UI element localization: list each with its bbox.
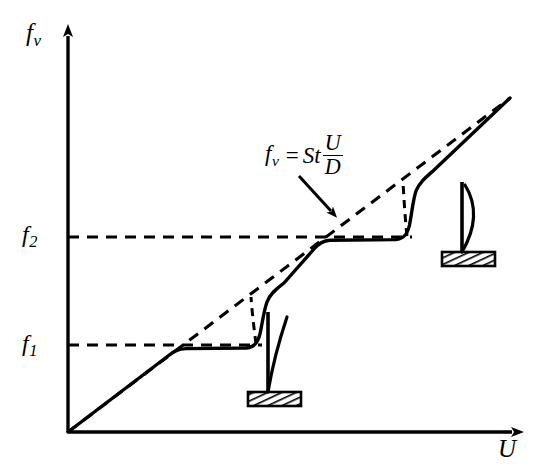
cantilever-large-amplitude-icon	[442, 182, 495, 266]
axis-group	[68, 36, 512, 432]
cantilever-small-amplitude-icon	[248, 312, 301, 406]
y-axis-label: fv	[26, 20, 41, 49]
equation-leader-arrow	[299, 176, 331, 211]
equation-strouhal-number: St	[303, 144, 321, 167]
y-tick-label-f2: f2	[22, 222, 37, 251]
x-axis-label: U	[498, 436, 516, 461]
diagram-svg	[0, 0, 542, 475]
figure-canvas: fv U f2 f1 fv = St U D	[0, 0, 542, 475]
equation-denominator: D	[323, 156, 343, 179]
jump2-dashed-segment	[403, 183, 407, 236]
y-tick-label-f1: f1	[22, 331, 37, 360]
beam-deflected-lower	[268, 317, 287, 392]
fixed-support-base-upper	[442, 252, 495, 266]
jump1-dashed-segment	[251, 297, 256, 344]
equation-numerator: U	[323, 132, 343, 156]
equation-equals-sign: =	[286, 144, 299, 167]
strouhal-equation-annotation: fv = St U D	[265, 132, 343, 178]
equation-fraction: U D	[323, 132, 343, 178]
fixed-support-base-lower	[248, 392, 301, 406]
equation-lhs: fv	[265, 142, 279, 169]
